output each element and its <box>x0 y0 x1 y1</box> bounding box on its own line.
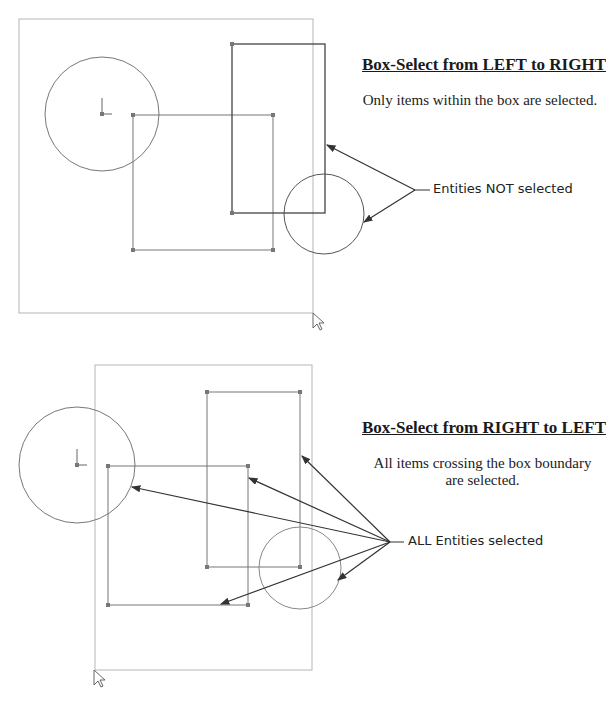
top-panel-description: Only items within the box are selected. <box>355 92 605 109</box>
circle-2 <box>284 174 364 254</box>
bottom-panel-callout: ALL Entities selected <box>408 533 543 548</box>
arrow-cursor-icon <box>94 670 105 687</box>
bottom-panel-description: All items crossing the box boundary are … <box>370 455 595 489</box>
selection-box <box>95 365 312 670</box>
origin-axes-icon <box>100 98 112 116</box>
arrow-cursor-icon <box>313 313 324 330</box>
top-panel-title: Box-Select from LEFT to RIGHT <box>362 55 606 75</box>
selection-box <box>19 19 313 313</box>
bottom-panel-title: Box-Select from RIGHT to LEFT <box>362 418 606 438</box>
rectangle-a <box>133 115 273 250</box>
origin-axes-icon <box>75 449 87 467</box>
top-panel-callout: Entities NOT selected <box>433 181 573 196</box>
bottom-panel-sketch <box>19 365 404 687</box>
rectangle-a <box>108 466 248 605</box>
rectangle-b <box>232 44 325 213</box>
